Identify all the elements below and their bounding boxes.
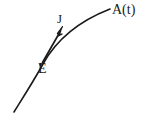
curve-label-a-of-t: A(t) (112, 3, 135, 17)
figure-canvas: A(t) J E (0, 0, 152, 113)
point-label-e: E (38, 62, 47, 76)
vector-label-j: J (57, 12, 62, 25)
